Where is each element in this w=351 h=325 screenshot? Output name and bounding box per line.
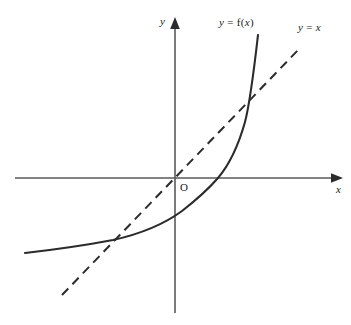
identity-line-label-equals: = [303, 21, 316, 33]
function-curve-label-fn: f( [237, 16, 245, 28]
function-curve-y-equals-f-of-x [25, 35, 258, 253]
identity-line-label-rhs: x [316, 21, 321, 33]
x-axis-label: x [336, 184, 341, 195]
function-curve-label-equals: = [224, 16, 237, 28]
function-curve-label-close: ) [250, 16, 254, 28]
math-figure: y x O y = f(x) y = x [0, 0, 351, 325]
origin-label: O [180, 182, 188, 193]
graph-canvas [0, 0, 351, 325]
x-axis-arrowhead [331, 173, 343, 183]
function-curve-label: y = f(x) [219, 17, 254, 28]
y-axis-label: y [160, 16, 165, 27]
identity-line-y-equals-x [62, 48, 300, 295]
identity-line-label: y = x [298, 22, 321, 33]
y-axis-arrowhead [170, 17, 180, 29]
